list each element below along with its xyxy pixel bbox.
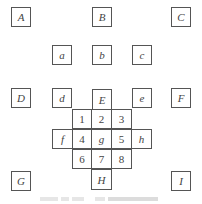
cell-label: 1 xyxy=(79,113,85,125)
box-label: a xyxy=(59,49,65,61)
box-label: A xyxy=(18,11,25,23)
grid-cell-f: f xyxy=(52,129,73,149)
grid-cell-4: 4 xyxy=(72,129,92,149)
box-e: e xyxy=(132,88,152,108)
box-C: C xyxy=(171,7,191,27)
box-I: I xyxy=(171,171,191,191)
cell-label: f xyxy=(61,133,64,145)
cell-label: H xyxy=(98,174,106,186)
figure-caption xyxy=(40,197,158,201)
grid-cell-g: g xyxy=(91,129,112,149)
box-label: F xyxy=(178,92,185,104)
grid-cell-h: h xyxy=(131,129,152,149)
grid-cell-E: E xyxy=(92,89,112,110)
box-label: c xyxy=(140,49,145,61)
box-label: B xyxy=(99,11,106,23)
box-a: a xyxy=(52,45,72,65)
cell-label: 3 xyxy=(119,113,125,125)
box-label: D xyxy=(17,92,25,104)
grid-cell-3: 3 xyxy=(111,109,132,129)
box-label: e xyxy=(140,92,145,104)
grid-cell-8: 8 xyxy=(111,149,132,169)
cell-label: 8 xyxy=(119,153,125,165)
grid-cell-5: 5 xyxy=(111,129,132,149)
cell-label: 7 xyxy=(99,153,105,165)
box-B: B xyxy=(92,7,112,27)
box-label: b xyxy=(99,49,105,61)
box-D: D xyxy=(11,88,31,108)
box-label: I xyxy=(179,175,183,187)
cell-label: 5 xyxy=(119,133,125,145)
box-G: G xyxy=(11,171,31,191)
cell-label: E xyxy=(99,94,106,106)
box-d: d xyxy=(52,88,72,108)
cell-label: 4 xyxy=(79,133,85,145)
grid-cell-6: 6 xyxy=(72,149,92,169)
box-label: G xyxy=(17,175,25,187)
grid-cell-1: 1 xyxy=(72,109,92,129)
cell-label: h xyxy=(139,133,145,145)
cell-label: 2 xyxy=(99,113,105,125)
box-label: C xyxy=(177,11,184,23)
box-label: d xyxy=(59,92,65,104)
box-A: A xyxy=(11,7,31,27)
grid-cell-2: 2 xyxy=(91,109,112,129)
box-F: F xyxy=(171,88,191,108)
cell-label: g xyxy=(99,133,105,145)
box-c: c xyxy=(132,45,152,65)
grid-cell-7: 7 xyxy=(91,149,112,169)
grid-cell-H: H xyxy=(91,169,112,190)
box-b: b xyxy=(92,45,112,65)
cell-label: 6 xyxy=(79,153,85,165)
